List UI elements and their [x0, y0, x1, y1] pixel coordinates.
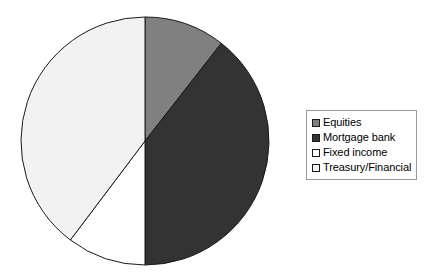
legend-item-label: Equities: [323, 117, 361, 128]
legend-item-label: Treasury/Financial: [323, 162, 411, 173]
legend-item-treasury-financial[interactable]: Treasury/Financial: [312, 160, 412, 175]
legend-item-label: Mortgage bank: [323, 132, 395, 143]
legend-swatch-icon: [312, 119, 320, 127]
legend-item-label: Fixed income: [323, 147, 387, 158]
pie-chart-figure: Equities Mortgage bank Fixed income Trea…: [0, 0, 425, 275]
legend-swatch-icon: [312, 164, 320, 172]
legend-item-fixed-income[interactable]: Fixed income: [312, 145, 412, 160]
legend-swatch-icon: [312, 149, 320, 157]
legend-swatch-icon: [312, 134, 320, 142]
chart-legend: Equities Mortgage bank Fixed income Trea…: [306, 110, 417, 180]
pie-slice-group: [21, 17, 269, 265]
legend-item-equities[interactable]: Equities: [312, 115, 412, 130]
legend-item-mortgage-bank[interactable]: Mortgage bank: [312, 130, 412, 145]
